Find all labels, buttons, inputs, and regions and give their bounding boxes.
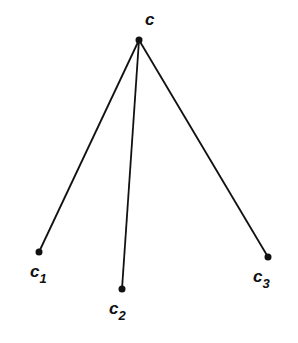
label-c: c	[145, 10, 155, 29]
label-c1: c1	[30, 262, 47, 286]
node-c	[136, 37, 143, 44]
node-c3	[265, 254, 272, 261]
nodes	[36, 37, 272, 293]
edge-c-c3	[139, 40, 268, 257]
labels: cc1c2c3	[30, 10, 270, 323]
node-c1	[36, 249, 43, 256]
tree-diagram: cc1c2c3	[0, 0, 298, 343]
label-c3: c3	[253, 267, 270, 291]
edges	[39, 40, 268, 289]
node-c2	[119, 286, 126, 293]
edge-c-c1	[39, 40, 139, 252]
edge-c-c2	[122, 40, 139, 289]
label-c2: c2	[109, 299, 126, 323]
